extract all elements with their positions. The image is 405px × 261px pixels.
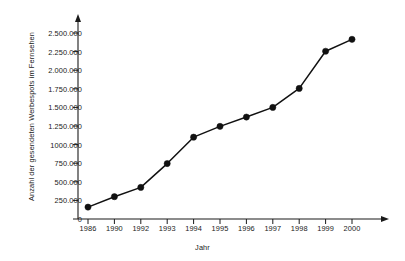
- y-tick-label: 2.000.000: [48, 66, 82, 75]
- x-tick-label: 1998: [291, 224, 308, 233]
- y-axis-title: Anzahl der gesendeten Werbespots im Fern…: [27, 22, 36, 212]
- x-axis-title: Jahr: [0, 243, 405, 252]
- axes-group: [75, 14, 389, 222]
- x-tick-label: 1996: [238, 224, 255, 233]
- x-tick-label: 2000: [344, 224, 361, 233]
- x-axis-arrowhead: [381, 216, 389, 222]
- y-tick-label: 250.000: [55, 196, 82, 205]
- y-tick-label: 2.500.000: [48, 29, 82, 38]
- data-point: [191, 134, 197, 140]
- x-tick-label: 1995: [212, 224, 229, 233]
- x-tick-label: 1994: [185, 224, 202, 233]
- data-point: [296, 85, 302, 91]
- y-tick-label: 2.250.000: [48, 47, 82, 56]
- data-point: [243, 114, 249, 120]
- x-axis-tick-labels: 1986199019921993199419951996199719981999…: [0, 224, 405, 238]
- data-point: [323, 48, 329, 54]
- data-point: [217, 123, 223, 129]
- data-point: [85, 204, 91, 210]
- x-tick-label: 1999: [317, 224, 334, 233]
- y-tick-label: 1.750.000: [48, 84, 82, 93]
- x-tick-label: 1986: [80, 224, 97, 233]
- data-point: [164, 160, 170, 166]
- x-tick-label: 1992: [132, 224, 149, 233]
- y-tick-label: 0: [78, 215, 82, 224]
- line-chart: 0250.000500.000750.0001000.0001.250.0001…: [0, 0, 405, 261]
- x-tick-label: 1993: [159, 224, 176, 233]
- data-point: [270, 104, 276, 110]
- y-axis-tick-labels: 0250.000500.000750.0001000.0001.250.0001…: [30, 0, 82, 261]
- series-markers: [85, 36, 355, 210]
- data-series: [85, 36, 355, 210]
- x-tick-label: 1990: [106, 224, 123, 233]
- y-tick-label: 1000.000: [50, 140, 82, 149]
- data-point: [111, 194, 117, 200]
- data-point: [138, 184, 144, 190]
- y-tick-label: 1.250.000: [48, 122, 82, 131]
- y-tick-label: 500.000: [55, 177, 82, 186]
- y-tick-label: 1.500.000: [48, 103, 82, 112]
- y-tick-label: 750.000: [55, 159, 82, 168]
- data-point: [349, 36, 355, 42]
- x-tick-label: 1997: [264, 224, 281, 233]
